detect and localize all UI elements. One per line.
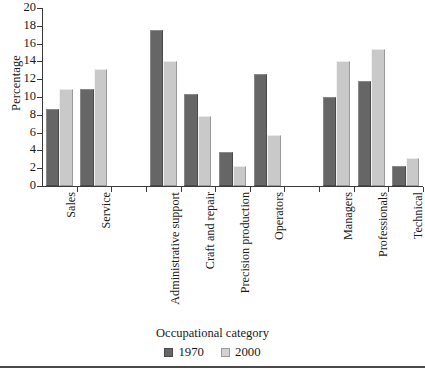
bar-professionals-1970 <box>358 81 372 186</box>
bar-administrative-support-1970 <box>150 30 164 186</box>
x-category-label: Operators <box>272 192 286 240</box>
y-tick-mark <box>37 8 42 9</box>
dark-gray-square-icon <box>164 348 173 357</box>
y-tick-mark <box>37 186 42 187</box>
x-category-label-text: Technical <box>411 192 425 239</box>
x-category-label-text: Managers <box>341 192 356 240</box>
x-category-label-text: Craft and repair <box>203 192 218 269</box>
x-category-label-text: Precision production <box>238 192 253 293</box>
x-category-label: Sales <box>64 192 78 218</box>
legend-item-1970: 1970 <box>164 345 204 360</box>
x-category-label-text: Professionals <box>376 192 391 257</box>
y-tick-mark <box>37 150 42 151</box>
y-tick-mark <box>37 61 42 62</box>
y-tick-mark <box>37 44 42 45</box>
bar-service-1970 <box>80 89 94 186</box>
y-tick-mark <box>37 115 42 116</box>
legend-item-2000: 2000 <box>221 345 261 360</box>
bar-operators-2000 <box>267 135 281 186</box>
bar-managers-1970 <box>323 97 337 186</box>
y-tick-label: 2 <box>8 162 36 172</box>
x-tick-mark <box>146 187 147 192</box>
x-tick-mark <box>319 187 320 192</box>
bar-service-2000 <box>94 69 108 186</box>
y-tick-label: 14 <box>8 55 36 65</box>
x-category-label: Managers <box>341 192 355 240</box>
bar-sales-1970 <box>46 109 60 186</box>
bar-precision-production-1970 <box>219 152 233 186</box>
x-category-label: Technical <box>411 192 425 239</box>
y-axis-line <box>42 8 43 187</box>
y-tick-label: 16 <box>8 38 36 48</box>
y-tick-mark <box>37 79 42 80</box>
legend: 19702000 <box>0 345 425 360</box>
bar-operators-1970 <box>254 74 268 186</box>
legend-label: 2000 <box>235 345 261 360</box>
y-tick-mark <box>37 168 42 169</box>
x-category-label-text: Service <box>99 192 114 229</box>
x-category-label: Service <box>99 192 113 229</box>
light-gray-square-icon <box>221 348 230 357</box>
y-tick-label: 10 <box>8 91 36 101</box>
legend-label: 1970 <box>178 345 204 360</box>
x-category-label: Administrative support <box>168 192 182 305</box>
bar-technical-1970 <box>392 166 406 186</box>
bar-administrative-support-2000 <box>163 61 177 186</box>
bar-managers-2000 <box>336 61 350 186</box>
bar-chart-figure: Percentage 02468101214161820 SalesServic… <box>0 0 425 373</box>
bar-technical-2000 <box>406 158 420 186</box>
y-tick-label: 18 <box>8 20 36 30</box>
bar-craft-and-repair-1970 <box>184 94 198 186</box>
y-tick-mark <box>37 133 42 134</box>
y-tick-label: 12 <box>8 73 36 83</box>
x-category-label-text: Operators <box>272 192 287 240</box>
y-tick-mark <box>37 97 42 98</box>
y-tick-label: 4 <box>8 144 36 154</box>
y-tick-label: 8 <box>8 109 36 119</box>
x-axis-title: Occupational category <box>0 326 425 341</box>
plot-area: 02468101214161820 <box>42 8 423 186</box>
footer-rule <box>0 366 425 368</box>
y-tick-label: 6 <box>8 127 36 137</box>
bar-sales-2000 <box>59 89 73 186</box>
x-category-label: Precision production <box>238 192 252 293</box>
x-category-label-text: Administrative support <box>168 192 183 305</box>
x-axis-line <box>42 186 423 187</box>
bar-professionals-2000 <box>371 49 385 186</box>
x-category-label-text: Sales <box>64 192 79 218</box>
x-category-label: Craft and repair <box>203 192 217 269</box>
bar-craft-and-repair-2000 <box>198 116 212 186</box>
y-tick-label: 20 <box>8 2 36 12</box>
y-tick-label: 0 <box>8 180 36 190</box>
y-tick-mark <box>37 26 42 27</box>
bar-precision-production-2000 <box>233 166 247 186</box>
x-category-label: Professionals <box>376 192 390 257</box>
